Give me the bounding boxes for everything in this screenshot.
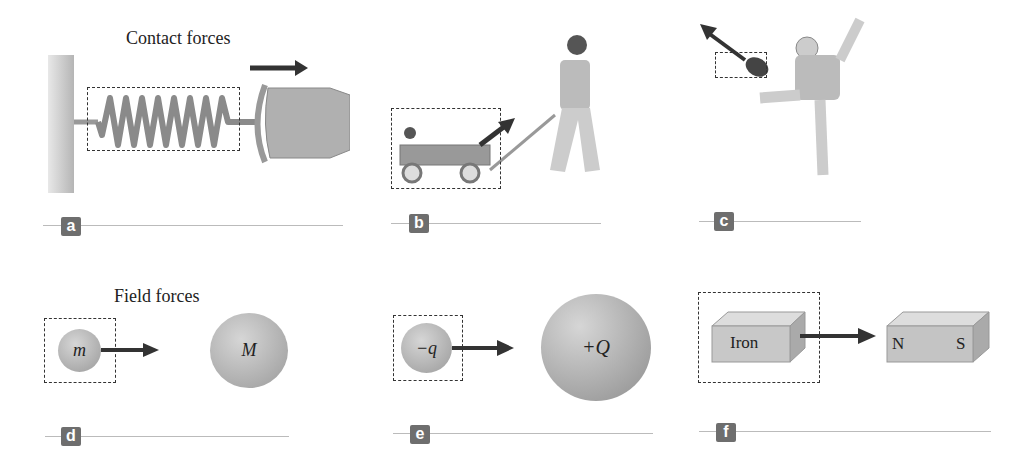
panel-f-rule [699, 431, 991, 432]
panel-a-badge: a [61, 217, 81, 236]
magnet-south-label: S [956, 334, 965, 354]
panel-c-badge: c [714, 212, 734, 231]
large-mass-sphere: M [210, 313, 288, 388]
panel-a-rule [43, 225, 343, 226]
magnet-north-label: N [892, 334, 904, 354]
panel-e-badge: e [410, 425, 430, 444]
panel-d-badge: d [61, 427, 81, 446]
magnetic-force-arrow [800, 324, 878, 348]
panel-e-rule [393, 433, 653, 434]
small-charge-sphere: −q [401, 323, 452, 373]
panel-d-rule [45, 436, 289, 437]
contact-forces-heading: Contact forces [126, 28, 230, 49]
large-charge-sphere: +Q [541, 294, 651, 401]
system-boundary-football [715, 52, 767, 78]
iron-label: Iron [730, 333, 758, 353]
panel-f-badge: f [716, 423, 736, 442]
system-boundary-spring [87, 87, 240, 151]
gravity-arrow [101, 340, 161, 360]
small-mass-sphere: m [58, 329, 101, 372]
system-boundary-wagon [391, 108, 501, 189]
field-forces-heading: Field forces [114, 286, 199, 307]
football-kicker-illustration [695, 10, 885, 185]
iron-block [710, 308, 810, 364]
panel-b-badge: b [409, 214, 429, 233]
electric-force-arrow [452, 338, 516, 358]
